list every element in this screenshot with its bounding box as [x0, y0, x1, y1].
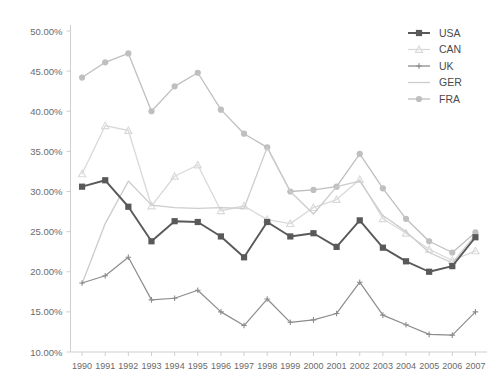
data-point-fra-1992 — [125, 50, 131, 56]
data-point-usa-1996 — [218, 233, 224, 239]
x-tick-label: 1997 — [234, 361, 254, 371]
data-point-usa-2001 — [333, 244, 339, 250]
x-tick-label: 1999 — [280, 361, 300, 371]
legend-item-usa[interactable]: USA — [408, 27, 461, 39]
x-tick-label: 1991 — [95, 361, 115, 371]
y-tick-label: 40.00% — [30, 106, 63, 117]
data-point-uk-2000 — [311, 317, 317, 323]
legend-label-uk: UK — [439, 60, 454, 72]
legend-marker-plus-uk — [416, 63, 422, 69]
data-point-usa-1992 — [125, 204, 131, 210]
series-fra — [79, 50, 479, 255]
legend-label-ger: GER — [439, 76, 462, 88]
data-point-fra-1995 — [195, 70, 201, 76]
legend-item-fra[interactable]: FRA — [408, 93, 460, 105]
legend-label-usa: USA — [439, 27, 461, 39]
x-tick-label: 2004 — [396, 361, 416, 371]
data-point-uk-1994 — [172, 295, 178, 301]
data-point-usa-1998 — [264, 219, 270, 225]
data-point-usa-1990 — [79, 184, 85, 190]
series-ger — [82, 147, 475, 283]
x-tick-label: 1995 — [188, 361, 208, 371]
y-tick-label: 30.00% — [30, 186, 63, 197]
data-point-fra-1994 — [172, 83, 178, 89]
x-tick-label: 1998 — [257, 361, 277, 371]
chart-canvas: 10.00%15.00%20.00%25.00%30.00%35.00%40.0… — [0, 0, 498, 391]
y-tick-label: 25.00% — [30, 226, 63, 237]
data-point-fra-2000 — [310, 187, 316, 193]
data-point-fra-1996 — [218, 107, 224, 113]
data-point-fra-1990 — [79, 74, 85, 80]
x-tick-label: 2002 — [350, 361, 370, 371]
x-tick-label: 1996 — [211, 361, 231, 371]
legend-item-ger[interactable]: GER — [408, 76, 462, 88]
y-tick-label: 20.00% — [30, 266, 63, 277]
data-point-uk-2005 — [426, 332, 432, 338]
data-point-fra-2002 — [357, 151, 363, 157]
x-tick-label: 1993 — [141, 361, 161, 371]
data-point-usa-1994 — [172, 218, 178, 224]
data-point-usa-2005 — [426, 269, 432, 275]
series-line-fra — [82, 53, 475, 252]
y-tick-label: 50.00% — [30, 26, 63, 37]
y-tick-label: 35.00% — [30, 146, 63, 157]
data-point-usa-1991 — [102, 177, 108, 183]
legend-label-can: CAN — [439, 43, 461, 55]
data-point-usa-1993 — [148, 238, 154, 244]
x-tick-label: 1990 — [72, 361, 92, 371]
series-can — [78, 122, 479, 263]
data-point-usa-2007 — [472, 234, 478, 240]
x-tick-label: 2000 — [303, 361, 323, 371]
data-point-fra-2003 — [380, 185, 386, 191]
y-tick-label: 10.00% — [30, 347, 63, 358]
legend-item-uk[interactable]: UK — [408, 60, 454, 72]
data-point-fra-1993 — [148, 108, 154, 114]
x-tick-label: 2001 — [327, 361, 347, 371]
x-tick-label: 1994 — [165, 361, 185, 371]
data-point-fra-1991 — [102, 59, 108, 65]
data-point-fra-2005 — [426, 238, 432, 244]
legend-item-can[interactable]: CAN — [408, 43, 461, 55]
data-point-uk-1993 — [149, 297, 155, 303]
y-tick-label: 45.00% — [30, 66, 63, 77]
line-chart-figure: 10.00%15.00%20.00%25.00%30.00%35.00%40.0… — [0, 0, 498, 391]
data-point-usa-2003 — [380, 245, 386, 251]
data-point-usa-2000 — [310, 230, 316, 236]
y-axis: 10.00%15.00%20.00%25.00%30.00%35.00%40.0… — [30, 25, 70, 358]
data-point-uk-1990 — [79, 280, 85, 286]
x-tick-label: 2003 — [373, 361, 393, 371]
x-tick-label: 2005 — [419, 361, 439, 371]
data-point-fra-2006 — [449, 249, 455, 255]
data-point-usa-2006 — [449, 263, 455, 269]
legend-label-fra: FRA — [439, 93, 460, 105]
data-point-usa-1997 — [241, 254, 247, 260]
x-tick-label: 1992 — [118, 361, 138, 371]
data-point-usa-1995 — [195, 219, 201, 225]
series-plot-area — [78, 50, 479, 338]
data-point-fra-1997 — [241, 131, 247, 137]
legend-marker-circle-fra — [416, 96, 422, 102]
x-tick-label: 2006 — [442, 361, 462, 371]
x-axis: 1990199119921993199419951996199719981999… — [71, 352, 488, 371]
data-point-usa-2004 — [403, 258, 409, 264]
chart-legend: USACANUKGERFRA — [408, 27, 462, 105]
data-point-usa-2002 — [357, 217, 363, 223]
series-line-ger — [82, 147, 475, 283]
legend-marker-square-usa — [416, 30, 422, 36]
data-point-fra-2004 — [403, 216, 409, 222]
y-tick-label: 15.00% — [30, 306, 63, 317]
data-point-uk-2004 — [403, 322, 409, 328]
data-point-usa-1999 — [287, 233, 293, 239]
series-line-uk — [82, 257, 475, 335]
x-tick-label: 2007 — [465, 361, 485, 371]
